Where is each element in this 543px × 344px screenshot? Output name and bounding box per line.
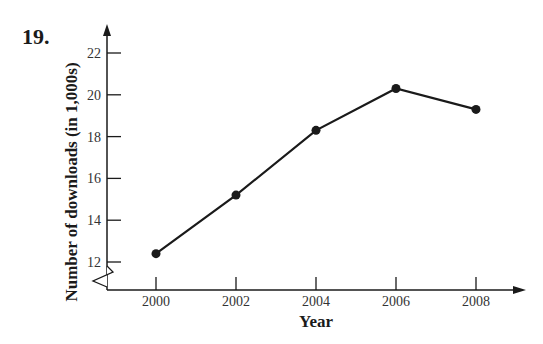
x-tick-label: 2000 bbox=[142, 294, 170, 309]
y-tick-label: 12 bbox=[87, 255, 101, 270]
data-point bbox=[232, 191, 241, 200]
x-axis-ticks: 20002002200420062008 bbox=[142, 277, 490, 309]
y-axis-arrow-icon bbox=[103, 24, 111, 36]
line-chart: 121416182022 20002002200420062008 Year N… bbox=[0, 0, 543, 344]
y-tick-label: 18 bbox=[87, 130, 101, 145]
y-tick-label: 14 bbox=[87, 213, 101, 228]
data-series bbox=[152, 84, 481, 258]
data-point bbox=[152, 249, 161, 258]
data-point bbox=[472, 105, 481, 114]
x-axis-label: Year bbox=[299, 312, 333, 331]
x-axis-arrow-icon bbox=[513, 286, 526, 294]
x-tick-label: 2002 bbox=[222, 294, 250, 309]
x-tick-label: 2008 bbox=[462, 294, 490, 309]
data-point bbox=[392, 84, 401, 93]
y-tick-label: 20 bbox=[87, 88, 101, 103]
y-tick-label: 16 bbox=[87, 171, 101, 186]
y-axis-ticks: 121416182022 bbox=[87, 46, 121, 270]
y-tick-label: 22 bbox=[87, 46, 101, 61]
x-tick-label: 2004 bbox=[302, 294, 330, 309]
series-line bbox=[156, 89, 476, 254]
y-axis-label: Number of downloads (in 1,000s) bbox=[62, 62, 81, 301]
data-point bbox=[312, 126, 321, 135]
x-tick-label: 2006 bbox=[382, 294, 410, 309]
